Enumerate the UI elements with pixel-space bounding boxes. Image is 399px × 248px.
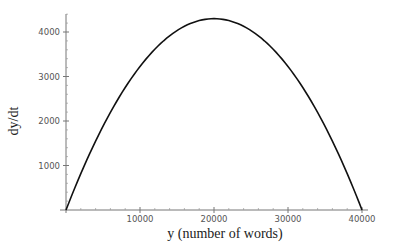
x-tick-label: 10000 <box>126 214 153 224</box>
chart: 1000200030004000 10000200003000040000 y … <box>0 0 399 248</box>
x-tick-label: 40000 <box>348 214 375 224</box>
x-tick-label: 30000 <box>274 214 301 224</box>
y-tick-label: 4000 <box>38 27 60 37</box>
x-tick-label: 20000 <box>200 214 227 224</box>
y-tick-label: 1000 <box>38 161 60 171</box>
y-axis-ticks: 1000200030004000 <box>38 27 69 171</box>
y-tick-label: 3000 <box>38 72 60 82</box>
data-curve <box>66 19 362 210</box>
x-axis-title: y (number of words) <box>167 226 283 242</box>
y-axis-title: dy/dt <box>6 107 21 136</box>
y-tick-label: 2000 <box>38 116 60 126</box>
